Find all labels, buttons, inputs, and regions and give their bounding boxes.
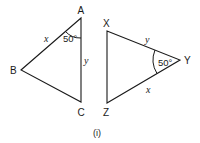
angle-y-arc [153,50,157,74]
vertex-label-z: Z [103,107,109,118]
angle-label-y: 50° [158,57,173,68]
side-label-yz: x [145,84,151,95]
side-label-ab: x [43,33,49,44]
vertex-label-c: C [78,107,85,118]
side-label-ac: y [83,55,89,66]
vertex-label-a: A [78,5,85,16]
figure-caption: (i) [93,128,101,138]
vertex-label-b: B [10,65,17,76]
triangle-xyz: X Y Z y x 50° [103,18,191,118]
side-label-xy: y [144,34,150,45]
triangle-abc: A B C x y 50° [10,5,89,118]
vertex-label-y: Y [184,55,191,66]
congruent-triangles-diagram: A B C x y 50° X Y Z y x 50° (i) [0,0,200,143]
angle-label-a: 50° [63,33,78,44]
triangle-abc-outline [21,18,81,102]
vertex-label-x: X [103,18,110,29]
